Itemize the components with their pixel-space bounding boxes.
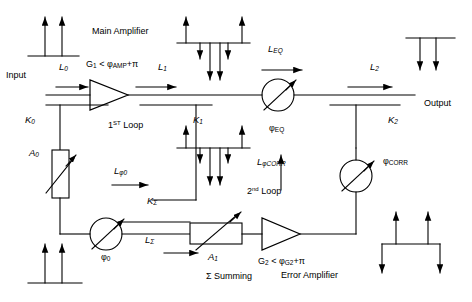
L0-sub: 0 bbox=[64, 65, 68, 72]
Ksigma-sub: Σ bbox=[153, 199, 157, 206]
phiEQ-sub: EQ bbox=[275, 126, 284, 133]
loss-L1-label: L1 bbox=[158, 62, 167, 73]
K2-sub: 2 bbox=[394, 118, 398, 125]
error-amp-gain-label: G2 < φG2+π bbox=[258, 257, 305, 267]
phase-shifter-phi-corr bbox=[340, 160, 372, 192]
gain1-rest: < φ bbox=[97, 59, 113, 69]
first-loop-word: Loop bbox=[121, 120, 144, 130]
coupler-k-sigma-label: KΣ bbox=[147, 196, 157, 207]
L1-sub: 1 bbox=[163, 65, 167, 72]
main-amp-gain-label: G1 < φAMP+π bbox=[86, 60, 138, 70]
a1-arrow bbox=[230, 212, 241, 222]
output-label: Output bbox=[424, 99, 451, 108]
LEQ-sub: EQ bbox=[273, 47, 282, 54]
gain2-rest: < φ bbox=[269, 256, 285, 266]
gain1-sub2: AMP bbox=[113, 62, 127, 69]
Lsigma-sub: Σ bbox=[150, 238, 154, 245]
coupler-k2-label: K2 bbox=[388, 115, 398, 126]
loss-L2-label: L2 bbox=[370, 62, 379, 73]
second-loop-label: 2nd Loop bbox=[247, 186, 281, 196]
phi0-sub: 0 bbox=[107, 255, 111, 262]
phase-shifter-phi-eq bbox=[262, 79, 294, 111]
error-amplifier-label: Error Amplifier bbox=[281, 271, 338, 280]
diagram-canvas: Input Output Main Amplifier Error Amplif… bbox=[0, 0, 472, 302]
second-loop-word: Loop bbox=[259, 186, 282, 196]
coupler-k0-label: K0 bbox=[25, 115, 35, 126]
input-label: Input bbox=[6, 71, 26, 80]
Lphi0-sub: φ0 bbox=[119, 169, 127, 176]
LphiCORR-sub: φCORR bbox=[262, 160, 285, 167]
A1-sub: 1 bbox=[214, 255, 218, 262]
loss-LphiCORR-label: LφCORR bbox=[257, 157, 286, 168]
attenuator-a0-label: A0 bbox=[29, 148, 39, 159]
error-amplifier-triangle bbox=[262, 218, 300, 250]
phase-shifter-phi0 bbox=[90, 218, 122, 250]
gain1-tail: +π bbox=[127, 59, 138, 69]
L2-sub: 2 bbox=[375, 65, 379, 72]
sigma-summing-label: Σ Summing bbox=[206, 272, 252, 281]
loss-Lphi0-label: Lφ0 bbox=[114, 166, 127, 177]
phase-shifter-phi0-label: φ0 bbox=[101, 253, 110, 263]
main-amplifier-label: Main Amplifier bbox=[92, 27, 149, 36]
phase-shifter-phi-corr-label: φCORR bbox=[383, 157, 408, 167]
gain1-main: G bbox=[86, 59, 93, 69]
second-loop-sup: nd bbox=[252, 186, 259, 192]
loss-L0-label: L0 bbox=[59, 62, 68, 73]
phase-shifter-phi-eq-label: φEQ bbox=[269, 124, 284, 134]
K1-sub: 1 bbox=[199, 118, 203, 125]
K0-sub: 0 bbox=[31, 118, 35, 125]
loss-LEQ-label: LEQ bbox=[268, 44, 283, 55]
first-loop-sup: ST bbox=[113, 120, 121, 126]
coupler-k1-label: K1 bbox=[193, 115, 203, 126]
phiCORR-sub: CORR bbox=[389, 159, 408, 166]
feedforward-amplifier-schematic bbox=[0, 0, 472, 302]
A0-sub: 0 bbox=[35, 151, 39, 158]
first-loop-label: 1ST Loop bbox=[108, 120, 143, 130]
gain2-main: G bbox=[258, 256, 265, 266]
gain2-tail: +π bbox=[293, 256, 304, 266]
attenuator-a1-label: A1 bbox=[208, 252, 218, 263]
loss-Lsigma-label: LΣ bbox=[145, 235, 154, 246]
